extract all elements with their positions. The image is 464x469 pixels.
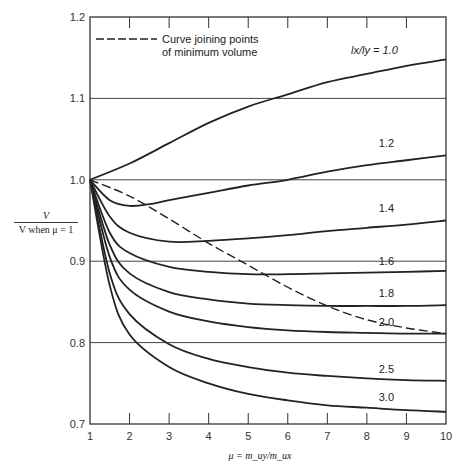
x-tick-label: 5 xyxy=(245,430,251,442)
x-tick-label: 6 xyxy=(285,430,291,442)
x-tick-label: 8 xyxy=(364,430,370,442)
x-tick-label: 9 xyxy=(403,430,409,442)
curve-label: 2.5 xyxy=(379,363,394,375)
curve-label: 1.4 xyxy=(379,202,394,214)
curve-label: 3.0 xyxy=(379,391,394,403)
legend-label-line2: of minimum volume xyxy=(162,46,257,58)
curve-label: lx/ly = 1.0 xyxy=(351,44,399,56)
x-tick-label: 1 xyxy=(87,430,93,442)
curve-label: 1.2 xyxy=(379,137,394,149)
x-tick-label: 10 xyxy=(440,430,452,442)
x-axis-label: μ = m_uy/m_ux xyxy=(210,450,310,461)
y-tick-label: 1.1 xyxy=(70,92,85,104)
y-tick-label: 1.2 xyxy=(70,11,85,23)
y-tick-label: 0.9 xyxy=(70,255,85,267)
curve-label: 1.6 xyxy=(379,255,394,267)
x-tick-label: 7 xyxy=(324,430,330,442)
x-tick-label: 2 xyxy=(126,430,132,442)
series-curve xyxy=(90,155,446,206)
y-tick-label: 0.8 xyxy=(70,337,85,349)
curve-label: 2.0 xyxy=(379,316,394,328)
y-tick-label: 1.0 xyxy=(70,174,85,186)
x-tick-label: 3 xyxy=(166,430,172,442)
y-axis-label-numerator: V xyxy=(14,210,78,223)
legend-label-line1: Curve joining points xyxy=(162,33,259,45)
x-tick-label: 4 xyxy=(206,430,212,442)
y-axis-label-denominator: V when μ = 1 xyxy=(14,223,78,235)
y-axis-label: V V when μ = 1 xyxy=(14,210,78,235)
y-tick-label: 0.7 xyxy=(70,418,85,430)
curve-label: 1.8 xyxy=(379,287,394,299)
